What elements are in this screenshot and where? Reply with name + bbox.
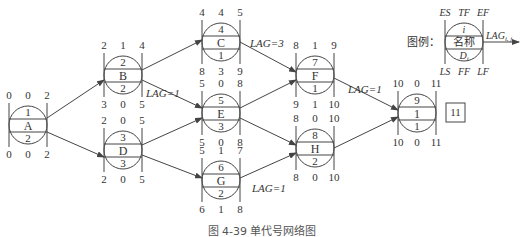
ls: 10 <box>393 136 405 148</box>
ls: 6 <box>199 203 205 215</box>
legend: 图例： i 名称 Di ES TF EF LS FF LF LAGi, j <box>407 7 520 77</box>
legend-tf: TF <box>458 7 471 18</box>
node-id: 8 <box>312 129 318 141</box>
node-id: 1 <box>25 106 31 118</box>
ff: 3 <box>218 65 224 77</box>
node-duration: 3 <box>120 157 126 169</box>
lf: 2 <box>44 148 50 160</box>
es: 8 <box>293 112 299 124</box>
es: 2 <box>101 39 107 51</box>
lf: 11 <box>431 136 442 148</box>
node-end: 9 1 1 10 0 11 10 0 11 <box>393 77 442 148</box>
node-name: D <box>119 144 128 158</box>
ef: 7 <box>237 144 243 156</box>
node-id: 6 <box>218 161 224 173</box>
node-id: 9 <box>414 94 420 106</box>
node-id: 5 <box>218 94 224 106</box>
legend-es: ES <box>438 7 450 18</box>
edge-d-g <box>142 155 202 178</box>
node-duration: 1 <box>218 49 224 61</box>
node-a: 1 A 2 0 0 2 0 0 2 <box>6 89 50 160</box>
es: 0 <box>6 89 12 101</box>
edge-e-h <box>240 118 296 145</box>
lf: 5 <box>139 173 145 185</box>
tf: 1 <box>120 39 126 51</box>
lag-label-g-h: LAG=1 <box>251 182 286 194</box>
node-name: 1 <box>414 107 420 121</box>
es: 4 <box>199 6 205 18</box>
es: 8 <box>293 39 299 51</box>
tf: 4 <box>218 6 224 18</box>
node-f: 7 F 1 8 1 9 9 1 10 <box>293 39 340 110</box>
node-name: F <box>312 69 319 83</box>
node-name: E <box>217 107 224 121</box>
node-name: A <box>24 119 33 133</box>
node-id: 3 <box>120 131 126 143</box>
node-name: B <box>119 69 127 83</box>
total-duration-box: 11 <box>446 103 465 122</box>
es: 5 <box>199 77 205 89</box>
node-e: 5 E 3 5 0 8 5 0 8 <box>199 77 243 148</box>
lf: 10 <box>329 98 341 110</box>
legend-ff: FF <box>457 66 471 77</box>
tf: 0 <box>312 112 318 124</box>
lag-label-b-e: LAG=1 <box>145 87 180 99</box>
ff: 0 <box>414 136 420 148</box>
tf: 0 <box>414 77 420 89</box>
legend-ef: EF <box>476 7 490 18</box>
edge-e-f <box>240 80 296 108</box>
edge-a-d <box>47 132 104 157</box>
ls: 8 <box>199 65 205 77</box>
legend-label: 图例： <box>407 35 440 49</box>
lag-label-c-f: LAG=3 <box>249 37 284 49</box>
es: 2 <box>101 114 107 126</box>
node-b: 2 B 2 2 1 4 3 0 5 <box>101 39 145 110</box>
tf: 0 <box>218 77 224 89</box>
tf: 0 <box>120 114 126 126</box>
ls: 3 <box>101 98 107 110</box>
lf: 9 <box>237 65 243 77</box>
lf: 8 <box>237 203 243 215</box>
lf: 10 <box>329 171 341 183</box>
node-name: C <box>217 36 225 50</box>
ef: 10 <box>329 112 341 124</box>
ff: 1 <box>218 203 224 215</box>
node-duration: 1 <box>414 120 420 132</box>
legend-lag: LAGi, j <box>485 30 512 43</box>
ff: 0 <box>25 148 31 160</box>
edge-g-h <box>240 153 296 178</box>
node-duration: 1 <box>312 82 318 94</box>
ff: 0 <box>120 173 126 185</box>
ls: 8 <box>293 171 299 183</box>
node-c: 4 C 1 4 4 5 8 3 9 <box>199 6 243 77</box>
node-duration: 2 <box>120 82 126 94</box>
node-d: 3 D 3 2 0 5 2 0 5 <box>101 114 145 185</box>
network-diagram: LAG=1 LAG=3 LAG=1 LAG=1 1 A 2 0 0 2 0 0 … <box>0 0 524 237</box>
legend-lf: LF <box>476 66 490 77</box>
ef: 8 <box>237 77 243 89</box>
node-duration: 3 <box>218 120 224 132</box>
legend-id: i <box>463 24 466 35</box>
node-name: G <box>217 174 226 188</box>
es: 10 <box>393 77 405 89</box>
ff: 0 <box>312 171 318 183</box>
lf: 5 <box>139 98 145 110</box>
tf: 1 <box>312 39 318 51</box>
node-id: 7 <box>312 56 318 68</box>
ef: 4 <box>139 39 145 51</box>
edge-h-end <box>334 117 398 148</box>
node-id: 2 <box>120 56 126 68</box>
ff: 1 <box>312 98 318 110</box>
edge-d-e <box>142 118 202 145</box>
ff: 0 <box>120 98 126 110</box>
ls: 2 <box>101 173 107 185</box>
ef: 9 <box>331 39 337 51</box>
node-id: 4 <box>218 23 224 35</box>
legend-ls: LS <box>439 66 451 77</box>
tf: 0 <box>25 89 31 101</box>
total-duration: 11 <box>450 106 461 118</box>
node-duration: 2 <box>312 155 318 167</box>
ls: 0 <box>6 148 12 160</box>
es: 5 <box>199 144 205 156</box>
edge-b-c <box>142 40 202 70</box>
